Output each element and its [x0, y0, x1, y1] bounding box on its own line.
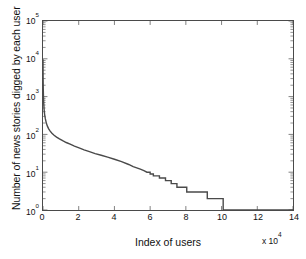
y-tick-label: 103 [26, 91, 42, 101]
x-tick-label: 8 [183, 213, 188, 222]
x-tick-label: 12 [253, 213, 263, 222]
x-axis-label: Index of users [42, 236, 294, 248]
y-tick-label: 101 [26, 168, 42, 178]
y-tick-label: 102 [26, 129, 42, 139]
y-tick-label: 105 [26, 15, 42, 25]
y-tick-label: 104 [26, 53, 42, 63]
x-tick-label: 6 [147, 213, 152, 222]
data-series-line [43, 59, 293, 210]
x-tick-label: 2 [75, 213, 80, 222]
x-tick-label: 10 [217, 213, 227, 222]
x-tick-label: 0 [39, 213, 44, 222]
chart-figure: Number of news stories digged by each us… [0, 0, 306, 259]
x-axis-multiplier: x 104 [262, 234, 282, 246]
plot-svg [43, 21, 293, 210]
x-tick-label: 4 [111, 213, 116, 222]
x-tick-label: 14 [289, 213, 299, 222]
y-axis-label: Number of news stories digged by each us… [10, 10, 22, 210]
plot-area [42, 20, 294, 211]
tick-marks [43, 21, 293, 210]
